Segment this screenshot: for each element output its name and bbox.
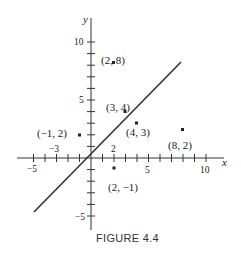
tick-label-y-10: 10 xyxy=(74,37,84,47)
x-axis-label: x xyxy=(221,156,227,168)
point-label-2-8: (2, 8) xyxy=(101,54,125,67)
tick-label-x-10: 10 xyxy=(200,165,210,175)
point-label-neg1-2: (−1, 2) xyxy=(37,127,67,140)
point-label-3-4: (3, 4) xyxy=(106,101,130,114)
figure-caption: FIGURE 4.4 xyxy=(96,232,159,244)
tick-label-x-neg3: −3 xyxy=(49,144,59,154)
point-label-4-3: (4, 3) xyxy=(126,126,150,139)
point-8-2 xyxy=(181,128,184,131)
point-label-8-2: (8, 2) xyxy=(168,139,192,152)
point-2-neg1 xyxy=(113,167,116,170)
tick-label-y-5: 5 xyxy=(79,95,84,105)
tick-label-x-2: 2 xyxy=(111,144,116,154)
tick-label-y-neg5: −5 xyxy=(75,212,85,222)
tick-label-x-5: 5 xyxy=(145,165,150,175)
coordinate-plane: −5 −3 2 5 10 10 5 −5 x y (2, 8) (3, 4) (… xyxy=(0,0,241,256)
point-neg1-2 xyxy=(78,134,81,137)
point-4-3 xyxy=(135,122,138,125)
point-label-2-neg1: (2, −1) xyxy=(108,181,138,194)
y-axis-label: y xyxy=(82,13,88,25)
tick-label-x-neg5: −5 xyxy=(27,164,37,174)
